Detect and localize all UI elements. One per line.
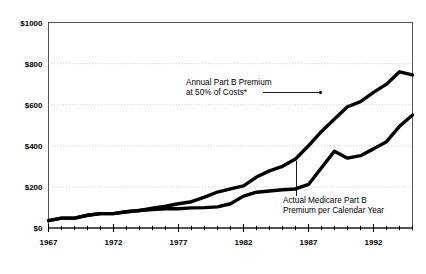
y-tick-label: $1000: [20, 19, 43, 28]
y-tick-label: $0: [34, 224, 43, 233]
y-tick-label: $600: [25, 101, 43, 110]
medicare-part-b-premium-line-chart: $1000$800$600$400$200$0 1967197219771982…: [0, 0, 426, 274]
x-tick-label: 1987: [300, 238, 318, 247]
upper-annotation-leader-dot: [319, 91, 322, 94]
x-tick-label: 1982: [235, 238, 253, 247]
x-tick-label: 1992: [365, 238, 383, 247]
y-tick-label: $200: [25, 183, 43, 192]
lower-annotation-line2: Premium per Calendar Year: [283, 206, 384, 215]
lower-annotation-line1: Actual Medicare Part B: [283, 196, 367, 205]
upper-annotation-line2: at 50% of Costs*: [186, 88, 248, 97]
y-tick-label: $400: [25, 142, 43, 151]
y-tick-label: $800: [25, 60, 43, 69]
chart-background: [0, 0, 426, 274]
x-tick-label: 1977: [170, 238, 188, 247]
chart-container: $1000$800$600$400$200$0 1967197219771982…: [0, 0, 426, 274]
x-tick-label: 1967: [40, 238, 58, 247]
x-tick-label: 1972: [105, 238, 123, 247]
upper-annotation-line1: Annual Part B Premium: [186, 78, 272, 87]
